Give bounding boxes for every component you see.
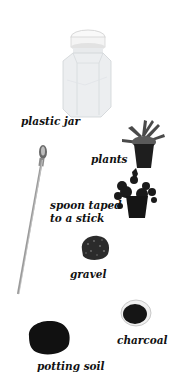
plant-2-image (112, 168, 162, 220)
plants-label: plants (91, 153, 128, 165)
gravel-label: gravel (70, 268, 106, 280)
charcoal-label: charcoal (117, 334, 168, 346)
gravel-image (78, 234, 112, 262)
plastic-jar-label: plastic jar (21, 115, 80, 127)
potting-soil-image (26, 318, 74, 358)
charcoal-image (119, 298, 154, 328)
plastic-jar-image (55, 25, 115, 120)
spoon-label-line1: spoon taped (50, 199, 122, 211)
spoon-on-stick-image (14, 144, 54, 296)
potting-soil-label: potting soil (37, 360, 105, 372)
materials-figure: plastic jar plants (0, 0, 183, 376)
spoon-label-line2: to a stick (50, 212, 104, 224)
